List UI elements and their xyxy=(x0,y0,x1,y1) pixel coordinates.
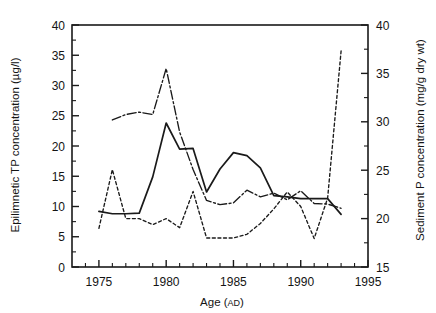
series-sediment-p-dashdot xyxy=(112,69,341,209)
y-axis-left-title: Epilimnetic TP concentration (µg/l) xyxy=(9,57,21,232)
series-sediment-p-dotted xyxy=(99,51,341,239)
y-left-tick-label: 20 xyxy=(52,140,66,154)
x-tick-label: 1990 xyxy=(287,275,314,289)
y-left-tick-label: 5 xyxy=(58,230,65,244)
y-left-tick-label: 35 xyxy=(52,49,66,63)
axes-frame xyxy=(72,25,368,267)
y-axis-right-title: Sediment P concentration (mg/g dry wt) xyxy=(414,39,426,241)
figure-container: 19751980198519901995 0510152025303540 15… xyxy=(0,0,436,313)
y-right-tick-label: 20 xyxy=(376,212,390,226)
x-tick-label: 1980 xyxy=(153,275,180,289)
y-axis-right-tick-labels: 152025303540 xyxy=(376,19,390,275)
y-right-tick-label: 40 xyxy=(376,19,390,33)
y-axis-left-tick-labels: 0510152025303540 xyxy=(52,19,66,275)
y-right-tick-label: 15 xyxy=(376,261,390,275)
y-left-tick-label: 25 xyxy=(52,109,66,123)
y-left-tick-label: 15 xyxy=(52,170,66,184)
y-left-tick-label: 40 xyxy=(52,19,66,33)
y-left-tick-label: 0 xyxy=(58,261,65,275)
y-right-tick-label: 30 xyxy=(376,115,390,129)
line-chart: 19751980198519901995 0510152025303540 15… xyxy=(0,0,436,313)
y-right-tick-label: 25 xyxy=(376,164,390,178)
x-tick-label: 1985 xyxy=(220,275,247,289)
y-left-tick-label: 10 xyxy=(52,200,66,214)
series-epilimnetic-tp-solid xyxy=(99,123,341,214)
y-right-tick-label: 35 xyxy=(376,67,390,81)
y-axis-right-ticks xyxy=(361,25,368,267)
x-tick-label: 1995 xyxy=(355,275,382,289)
x-axis-ticks xyxy=(85,260,368,267)
x-axis-title: Age (AD) xyxy=(200,296,244,308)
y-left-tick-label: 30 xyxy=(52,79,66,93)
x-tick-label: 1975 xyxy=(86,275,113,289)
data-series-layer xyxy=(99,51,341,239)
x-axis-tick-labels: 19751980198519901995 xyxy=(86,275,382,289)
y-axis-left-ticks xyxy=(72,25,79,267)
